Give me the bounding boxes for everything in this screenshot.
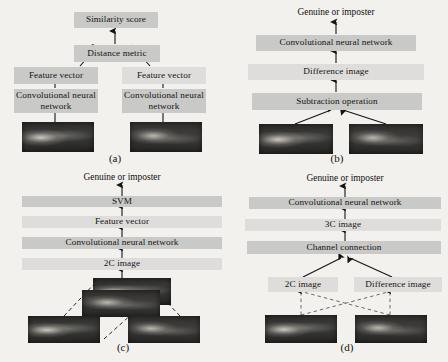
arrow-d-diff-to-channel xyxy=(350,258,392,277)
difference-image-box-b: Difference image xyxy=(248,64,424,80)
difference-image-box-d: Difference image xyxy=(354,277,442,292)
cnn-right-box: Convolutional neural network xyxy=(122,89,206,113)
vein-image-left-d xyxy=(265,315,337,343)
panel-d-caption: (d) xyxy=(327,341,367,353)
channel-connection-box-d: Channel connection xyxy=(247,241,441,254)
panel-b-caption: (b) xyxy=(317,152,357,164)
three-channel-image-box-d: 3C image xyxy=(245,219,441,231)
feature-vector-right-box: Feature vector xyxy=(122,67,206,84)
two-channel-image-box-c: 2C image xyxy=(22,258,222,270)
dashed-d-veinright-to-2c xyxy=(303,292,390,315)
vein-image-right xyxy=(130,122,202,152)
vein-image-left-c xyxy=(28,316,100,343)
vein-image-right-c xyxy=(128,316,200,343)
two-channel-image-box-d: 2C image xyxy=(268,277,338,292)
panel-a-caption: (a) xyxy=(95,152,135,164)
cnn-box-d: Convolutional neural network xyxy=(249,197,441,209)
vein-image-left-b xyxy=(259,124,333,154)
vein-image-right-d xyxy=(355,315,427,343)
genuine-or-imposter-label-b: Genuine or imposter xyxy=(281,5,391,19)
subtraction-operation-box-b: Subtraction operation xyxy=(252,93,422,110)
arrow-b-veinleft-to-subtraction xyxy=(295,110,331,124)
genuine-or-imposter-label-c: Genuine or imposter xyxy=(67,170,177,184)
cnn-box-c: Convolutional neural network xyxy=(22,237,222,249)
distance-metric-box: Distance metric xyxy=(74,45,160,62)
figure-four-panel-architectures: Similarity score Distance metric Feature… xyxy=(0,0,448,362)
vein-image-left xyxy=(22,122,94,152)
arrow-b-veinright-to-subtraction xyxy=(343,110,386,124)
arrow-d-2c-to-channel xyxy=(303,258,341,277)
vein-image-right-b xyxy=(349,124,423,154)
cnn-box-b: Convolutional neural network xyxy=(256,35,416,51)
similarity-score-box: Similarity score xyxy=(74,12,158,28)
panel-c-caption: (c) xyxy=(103,341,143,353)
feature-vector-box-c: Feature vector xyxy=(22,216,222,228)
svm-box-c: SVM xyxy=(22,196,222,207)
dashed-d-veinleft-to-diff xyxy=(301,292,388,315)
feature-vector-left-box: Feature vector xyxy=(14,67,98,84)
cnn-left-box: Convolutional neural network xyxy=(14,89,98,113)
genuine-or-imposter-label-d: Genuine or imposter xyxy=(290,171,400,185)
stacked-image-bottom-c xyxy=(82,290,160,317)
